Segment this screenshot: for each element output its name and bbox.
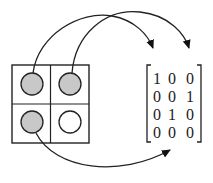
matrix-cell: 0 bbox=[186, 70, 194, 87]
arrow-cell-0-1-to-column-3 bbox=[72, 12, 189, 73]
matrix-cell: 1 bbox=[186, 88, 194, 105]
cell-1-1-empty-circle bbox=[59, 111, 81, 133]
cell-0-0-filled-circle bbox=[21, 73, 43, 95]
matrix-cell: 0 bbox=[168, 70, 176, 87]
matrix-cell: 0 bbox=[153, 124, 161, 141]
cell-1-0-filled-circle bbox=[21, 111, 43, 133]
matrix-cell: 0 bbox=[168, 124, 176, 141]
matrix-cell: 1 bbox=[153, 70, 161, 87]
right-bracket bbox=[197, 65, 201, 142]
matrix-cell: 0 bbox=[168, 88, 176, 105]
diagram-canvas: 1 0 0 0 0 1 0 1 0 0 0 0 bbox=[0, 0, 213, 183]
matrix-cell: 1 bbox=[168, 106, 176, 123]
grid-2x2 bbox=[12, 65, 89, 143]
matrix-cell: 0 bbox=[153, 106, 161, 123]
matrix-entries: 1 0 0 0 0 1 0 1 0 0 0 0 bbox=[153, 70, 194, 141]
matrix-cell: 0 bbox=[186, 124, 194, 141]
matrix-cell: 0 bbox=[153, 88, 161, 105]
left-bracket bbox=[147, 65, 151, 142]
arrow-cell-1-0-to-column-2 bbox=[36, 133, 170, 167]
matrix-cell: 0 bbox=[186, 106, 194, 123]
cell-0-1-filled-circle bbox=[59, 73, 81, 95]
